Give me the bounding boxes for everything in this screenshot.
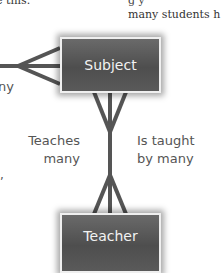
- left-crowfoot-lower: [18, 66, 60, 84]
- label-teaches-many: Teaches many: [22, 132, 80, 168]
- left-crowfoot-upper: [18, 48, 60, 66]
- label-teaches-line2: many: [22, 150, 80, 168]
- entity-subject: Subject: [60, 37, 161, 93]
- teacher-crowfoot-left: [94, 175, 110, 214]
- teacher-crowfoot-right: [110, 175, 126, 214]
- label-is-taught-by-many: Is taught by many: [137, 132, 195, 168]
- left-comma-fragment: ,: [0, 168, 4, 182]
- label-taught-line2: by many: [137, 150, 195, 168]
- entity-teacher-label: Teacher: [83, 228, 137, 244]
- label-teaches-line1: Teaches: [22, 132, 80, 150]
- entity-teacher: Teacher: [60, 213, 161, 273]
- subject-crowfoot-right: [110, 92, 126, 132]
- left-relationship-label-fragment: ny: [0, 79, 14, 94]
- label-taught-line1: Is taught: [137, 132, 195, 150]
- subject-crowfoot-left: [94, 92, 110, 132]
- entity-subject-label: Subject: [84, 57, 136, 73]
